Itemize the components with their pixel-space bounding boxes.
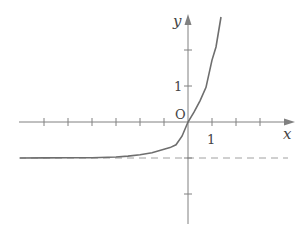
exponential-curve (20, 17, 221, 158)
x-tick-label-1: 1 (207, 132, 215, 147)
origin-label: O (175, 107, 186, 122)
x-axis-label: x (283, 125, 292, 143)
y-axis-label: y (172, 12, 182, 30)
y-axis-arrow-icon (185, 14, 192, 25)
function-graph: x y O 1 1 (0, 0, 302, 226)
y-tick-label-1: 1 (174, 79, 182, 94)
